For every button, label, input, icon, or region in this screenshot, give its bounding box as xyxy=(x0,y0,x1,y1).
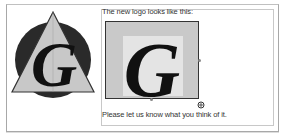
intro-text: The new logo looks like this: xyxy=(102,7,193,16)
resize-cursor-icon xyxy=(197,101,205,109)
logo-image-selected[interactable]: G xyxy=(105,21,199,99)
closing-text: Please let us know what you think of it. xyxy=(102,110,227,119)
svg-text:G: G xyxy=(31,29,77,100)
resize-handle-right[interactable] xyxy=(198,59,201,62)
logo-icon: G xyxy=(8,8,98,100)
letter-g-icon: G xyxy=(106,22,200,100)
resize-corner-handle[interactable] xyxy=(197,95,205,103)
company-logo: G xyxy=(8,8,98,100)
resize-handle-bottom[interactable] xyxy=(150,98,153,101)
svg-text:G: G xyxy=(124,26,180,100)
